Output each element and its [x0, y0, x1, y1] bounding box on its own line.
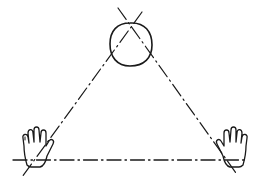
left-hand-icon — [23, 127, 54, 167]
left-edge-line — [22, 12, 142, 177]
right-hand-icon — [216, 127, 247, 167]
head-circle-icon — [110, 23, 152, 66]
diagram-canvas — [0, 0, 260, 192]
right-edge-line — [118, 8, 236, 173]
triangle-diagram — [0, 0, 260, 192]
